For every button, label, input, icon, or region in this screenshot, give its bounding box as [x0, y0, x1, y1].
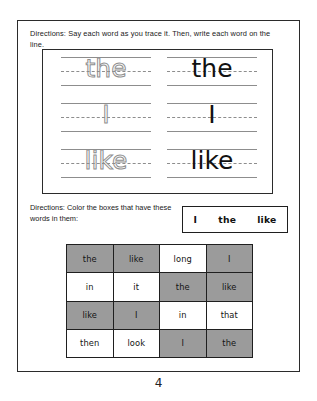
grid-cell[interactable]: I — [114, 302, 160, 329]
grid-cell[interactable]: long — [160, 245, 206, 272]
grid-cell[interactable]: the — [207, 330, 253, 357]
word-bank-item: I — [194, 214, 198, 225]
tracing-row: I I — [43, 98, 272, 146]
written-word: like — [167, 143, 257, 185]
grid-cell[interactable]: the — [67, 245, 113, 272]
grid-cell[interactable]: in — [67, 273, 113, 300]
grid-cell[interactable]: look — [114, 330, 160, 357]
written-word: I — [167, 97, 257, 139]
word-bank-item: like — [257, 214, 276, 225]
grid-cell[interactable]: I — [207, 245, 253, 272]
handwriting-guide-written[interactable]: I — [167, 98, 257, 140]
tracing-row: like like — [43, 144, 272, 192]
worksheet-page: Directions: Say each word as you trace i… — [17, 20, 300, 372]
handwriting-guide-written[interactable]: like — [167, 144, 257, 186]
grid-cell[interactable]: it — [114, 273, 160, 300]
grid-cell[interactable]: that — [207, 302, 253, 329]
directions-coloring: Directions: Color the boxes that have th… — [30, 203, 180, 224]
traced-word: like — [61, 143, 151, 185]
grid-cell[interactable]: like — [207, 273, 253, 300]
handwriting-guide-written[interactable]: the — [167, 52, 257, 94]
handwriting-guide-traced: like — [61, 144, 151, 186]
tracing-box: the the I I — [42, 49, 273, 194]
handwriting-guide-traced: I — [61, 98, 151, 140]
handwriting-guide-traced: the — [61, 52, 151, 94]
color-word-grid: the like long I in it the like like I in… — [66, 244, 253, 358]
grid-cell[interactable]: the — [160, 273, 206, 300]
traced-word: the — [61, 51, 151, 93]
grid-cell[interactable]: like — [114, 245, 160, 272]
traced-word: I — [61, 97, 151, 139]
grid-cell[interactable]: like — [67, 302, 113, 329]
grid-cell[interactable]: then — [67, 330, 113, 357]
tracing-row: the the — [43, 52, 272, 100]
word-bank: I the like — [182, 206, 288, 233]
grid-cell[interactable]: in — [160, 302, 206, 329]
written-word: the — [167, 51, 257, 93]
word-bank-item: the — [218, 214, 236, 225]
page-number: 4 — [0, 376, 317, 390]
grid-cell[interactable]: I — [160, 330, 206, 357]
directions-tracing: Directions: Say each word as you trace i… — [30, 29, 286, 50]
